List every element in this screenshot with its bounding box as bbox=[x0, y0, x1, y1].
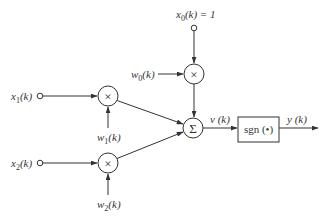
mult2-to-sum-arrow bbox=[117, 132, 183, 159]
multiply-icon: × bbox=[104, 156, 111, 171]
sigma-icon: Σ bbox=[189, 121, 197, 136]
x1-input-terminal bbox=[37, 93, 43, 99]
x2-input-terminal bbox=[37, 160, 43, 166]
w0-label: w0(k) bbox=[131, 68, 155, 83]
neuron-diagram: x0(k) = 1 w0(k) × x1(k) × w1(k) x2(k) × … bbox=[0, 0, 323, 224]
multiply-icon: × bbox=[190, 67, 197, 82]
bias-input-label: x0(k) = 1 bbox=[175, 8, 216, 23]
x2-input-label: x2(k) bbox=[10, 157, 32, 172]
bias-input-terminal bbox=[191, 25, 197, 31]
sign-activation-label: sgn (•) bbox=[244, 123, 274, 136]
v-label: v (k) bbox=[210, 113, 230, 126]
w1-label: w1(k) bbox=[97, 131, 121, 146]
y-output-label: y (k) bbox=[286, 113, 307, 126]
mult1-to-sum-arrow bbox=[117, 101, 183, 125]
w2-label: w2(k) bbox=[97, 198, 121, 213]
multiply-icon: × bbox=[104, 89, 111, 104]
x1-input-label: x1(k) bbox=[10, 90, 32, 105]
